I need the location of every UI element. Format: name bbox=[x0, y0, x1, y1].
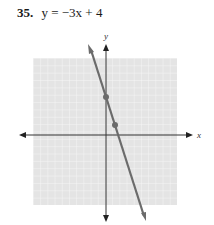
y-axis-down-arrow-icon bbox=[103, 215, 109, 222]
line-lower-arrow-icon bbox=[141, 212, 146, 221]
line-upper-arrow-icon bbox=[88, 44, 94, 54]
point-1-1 bbox=[112, 122, 118, 128]
y-axis-up-arrow-icon bbox=[103, 44, 109, 51]
x-axis-left-arrow-icon bbox=[19, 132, 26, 138]
y-axis-label: y bbox=[103, 31, 108, 41]
x-axis-right-arrow-icon bbox=[186, 132, 193, 138]
point-y-intercept bbox=[103, 94, 109, 100]
coordinate-graph: x y bbox=[0, 0, 214, 225]
x-axis-label: x bbox=[196, 130, 201, 140]
grid-background bbox=[33, 58, 177, 205]
